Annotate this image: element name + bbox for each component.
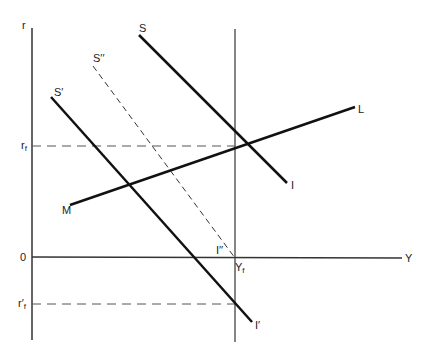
s-double-prime-curve: [93, 66, 235, 258]
m-l-curve: [70, 107, 355, 205]
s-double-prime-label: S′′: [93, 52, 104, 64]
s-prime-i-prime-curve: [51, 97, 252, 322]
i-prime-label: I′: [255, 319, 260, 331]
i-double-prime-label: I′′: [216, 244, 223, 256]
y-axis-label: r: [22, 19, 26, 31]
s-label: S: [139, 22, 146, 34]
rf-label: rf: [21, 139, 28, 153]
s-prime-label: S′: [54, 86, 63, 98]
l-label: L: [358, 103, 364, 115]
yf-label: Yf: [235, 261, 245, 275]
rf-prime-label: r′f: [18, 297, 27, 311]
x-axis: [32, 257, 402, 258]
m-label: M: [62, 204, 71, 216]
is-lm-diagram: r Y 0 rf r′f Yf S I S′ I′ S′′ I′′ M L: [0, 0, 436, 363]
origin-label: 0: [20, 251, 26, 263]
i-label: I: [291, 179, 294, 191]
x-axis-label: Y: [405, 252, 413, 264]
s-i-curve: [139, 35, 287, 183]
